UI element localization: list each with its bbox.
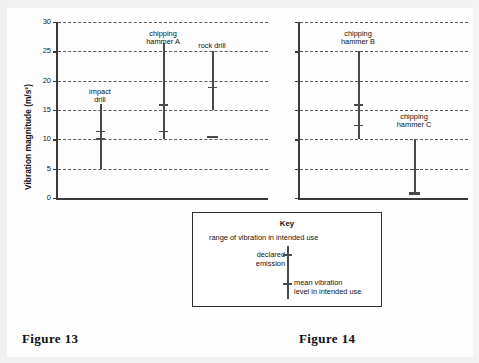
y-axis-tick-5	[53, 169, 57, 170]
gridline-10	[300, 139, 468, 140]
gridline-15	[300, 110, 468, 111]
declared-emission-tick-chipping-hammer-C	[410, 169, 419, 171]
mean-vibration-tick-impact-drill	[96, 138, 105, 140]
y-axis-tick-30	[53, 22, 57, 23]
declared-emission-tick-chipping-hammer-B	[354, 104, 363, 106]
range-bar-rock-drill	[212, 51, 214, 110]
range-bar-chipping-hammer-C	[414, 139, 416, 192]
key-declared-emission-label: declaredemission	[223, 251, 285, 268]
y-axis-tick-0	[295, 198, 299, 199]
mean-vibration-tick-chipping-hammer-C	[409, 192, 420, 195]
declared-emission-tick-rock-drill	[208, 87, 217, 89]
series-label-chipping-hammer-B: chippinghammer B	[313, 30, 403, 47]
gridline-5	[58, 169, 268, 170]
scan-edge-right	[473, 0, 479, 363]
gridline-25	[300, 51, 468, 52]
x-axis-line	[298, 198, 468, 200]
figure-13-caption: Figure 13	[22, 331, 78, 347]
y-axis-tick-20	[53, 81, 57, 82]
gridline-5	[300, 169, 468, 170]
y-axis-tick-25	[295, 51, 299, 52]
series-label-rock-drill: rock drill	[167, 42, 257, 50]
range-bar-chipping-hammer-A	[163, 43, 165, 140]
mean-vibration-tick-chipping-hammer-B	[354, 125, 363, 127]
y-axis-tick-20	[295, 81, 299, 82]
y-axis-tick-10	[53, 139, 57, 140]
y-axis-label-30: 30	[26, 18, 51, 26]
page-background	[0, 0, 479, 363]
y-axis-tick-30	[295, 22, 299, 23]
key-title: Key	[193, 219, 381, 228]
key-legend-box: Key range of vibration in intended use d…	[192, 212, 382, 307]
y-axis-tick-15	[53, 110, 57, 111]
gridline-20	[300, 81, 468, 82]
key-mean-tick	[283, 283, 292, 285]
key-mean-vibration-label: mean vibrationlevel in intended use	[294, 279, 361, 296]
y-axis-tick-10	[295, 139, 299, 140]
key-declared-tick	[283, 254, 292, 256]
mean-vibration-tick-chipping-hammer-A	[159, 131, 168, 133]
y-axis-tick-15	[295, 110, 299, 111]
y-axis-label-25: 25	[26, 47, 51, 55]
series-label-chipping-hammer-C: chippinghammer C	[369, 113, 459, 130]
declared-emission-tick-chipping-hammer-A	[159, 104, 168, 106]
y-axis-tick-25	[53, 51, 57, 52]
y-axis-title: Vibration magnitude (m/s²)	[23, 84, 33, 190]
gridline-30	[300, 22, 468, 23]
y-axis-tick-0	[53, 198, 57, 199]
scan-edge-bottom	[0, 357, 479, 363]
detached-mean-marker-rock-drill	[207, 136, 218, 138]
declared-emission-tick-impact-drill	[96, 131, 105, 133]
range-bar-impact-drill	[100, 104, 102, 169]
y-axis-tick-5	[295, 169, 299, 170]
scan-edge-top	[0, 0, 479, 8]
y-axis-label-0: 0	[26, 194, 51, 202]
gridline-10	[58, 139, 268, 140]
series-label-impact-drill: impactdrill	[55, 88, 145, 105]
x-axis-line	[56, 198, 268, 200]
figure-14-caption: Figure 14	[299, 331, 355, 347]
key-range-label: range of vibration in intended use	[209, 234, 318, 243]
gridline-30	[58, 22, 268, 23]
scan-edge-left	[0, 0, 7, 363]
